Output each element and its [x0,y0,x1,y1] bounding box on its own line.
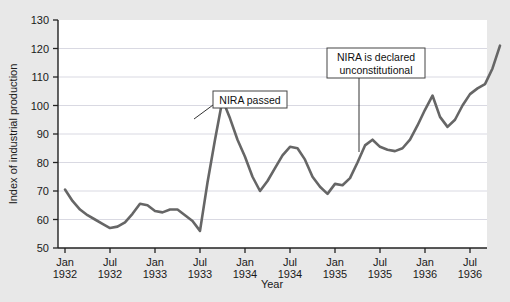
x-axis-tick-label-month: Jan [56,256,74,268]
annotation-label: NIRA passed [219,94,280,106]
x-axis-tick-label-month: Jul [373,256,387,268]
x-axis-tick-label-year: 1932 [98,268,122,280]
x-axis-title: Year [261,278,284,290]
x-axis-tick-label-year: 1936 [458,268,482,280]
x-axis-tick-label-month: Jan [416,256,434,268]
x-axis-tick-label-month: Jan [236,256,254,268]
x-axis-tick-label-year: 1932 [53,268,77,280]
x-axis-tick-label-year: 1934 [233,268,257,280]
y-axis-tick-label: 110 [31,71,49,83]
x-axis-tick-label-month: Jul [103,256,117,268]
x-axis-tick-label-year: 1935 [323,268,347,280]
y-axis-tick-label: 60 [37,214,49,226]
y-axis-tick-label: 100 [31,100,49,112]
annotation-label: unconstitutional [340,64,413,76]
x-axis-tick-label-month: Jul [283,256,297,268]
industrial-production-line-chart: 5060708090100110120130 Jan1932Jul1932Jan… [0,0,510,302]
x-axis-tick-label-month: Jul [193,256,207,268]
x-axis-tick-label-month: Jul [463,256,477,268]
y-axis-tick-label: 90 [37,128,49,140]
x-axis-tick-label-year: 1933 [143,268,167,280]
x-axis-tick-label-month: Jan [326,256,344,268]
chart-figure: 5060708090100110120130 Jan1932Jul1932Jan… [0,0,510,302]
y-axis-tick-label: 50 [37,242,49,254]
annotation-label: NIRA is declared [337,51,415,63]
x-axis-tick-label-year: 1936 [413,268,437,280]
y-axis-title: Index of industrial production [7,64,19,205]
y-axis-tick-label: 80 [37,157,49,169]
x-axis-tick-label-year: 1933 [188,268,212,280]
x-axis-tick-label-month: Jan [146,256,164,268]
y-axis-tick-label: 70 [37,185,49,197]
x-axis-tick-label-year: 1935 [368,268,392,280]
y-axis-tick-label: 120 [31,43,49,55]
scan-bleed-text [18,2,500,16]
